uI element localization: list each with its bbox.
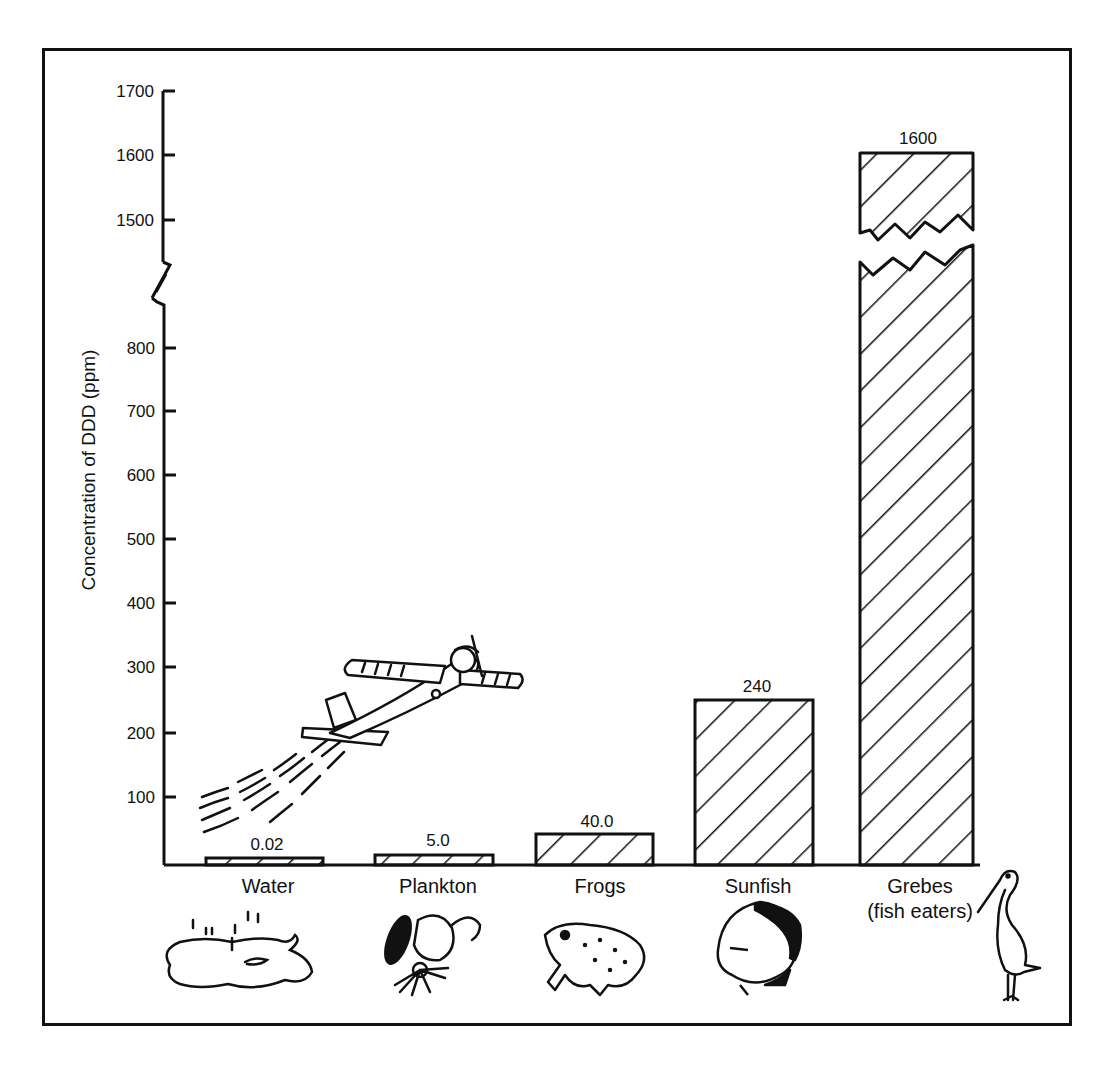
category-label-plankton: Plankton: [399, 875, 477, 897]
bar-grebes-lower: [860, 245, 973, 865]
category-label-sunfish: Sunfish: [725, 875, 792, 897]
bar-frogs: [536, 834, 653, 865]
y-tick-label: 700: [127, 402, 155, 421]
plankton-icon: [380, 913, 480, 995]
figure: 1700 1600 1500 800 700 600 500 400 300 2…: [0, 0, 1117, 1074]
bar-water: [206, 858, 323, 865]
bars: [206, 153, 973, 865]
category-sublabel-grebes: (fish eaters): [867, 900, 973, 922]
bar-sunfish: [695, 700, 813, 865]
sunfish-icon: [718, 902, 801, 995]
y-tick-label: 100: [127, 788, 155, 807]
category-label-frogs: Frogs: [574, 875, 625, 897]
y-tick-label: 1600: [116, 146, 154, 165]
y-tick-label: 500: [127, 530, 155, 549]
value-label-grebes: 1600: [899, 129, 937, 148]
y-axis-title: Concentration of DDD (ppm): [78, 350, 99, 591]
y-tick-label: 200: [127, 724, 155, 743]
frog-icon: [545, 924, 644, 995]
value-label-frogs: 40.0: [580, 812, 613, 831]
y-tick-label: 800: [127, 339, 155, 358]
airplane-illustration: [200, 636, 523, 832]
y-tick-label: 600: [127, 466, 155, 485]
value-label-plankton: 5.0: [426, 831, 450, 850]
y-tick-label: 300: [127, 658, 155, 677]
bar-plankton: [375, 855, 493, 865]
bar-chart: 1700 1600 1500 800 700 600 500 400 300 2…: [0, 0, 1117, 1074]
y-tick-label: 1700: [116, 82, 154, 101]
spray-icon: [200, 738, 344, 832]
bar-grebes-upper: [860, 153, 973, 240]
grebe-bird-icon: [978, 871, 1040, 1000]
value-labels: 0.02 5.0 40.0 240 1600: [250, 129, 936, 854]
value-label-water: 0.02: [250, 835, 283, 854]
y-axis: [152, 91, 176, 865]
category-labels: Water Plankton Frogs Sunfish Grebes (fis…: [242, 875, 973, 922]
category-label-grebes: Grebes: [887, 875, 953, 897]
value-label-sunfish: 240: [743, 677, 771, 696]
axis-break-mark: [156, 274, 166, 292]
y-tick-label: 400: [127, 594, 155, 613]
category-label-water: Water: [242, 875, 295, 897]
y-tick-label: 1500: [116, 211, 154, 230]
water-puddle-icon: [167, 912, 312, 987]
y-tick-labels: 1700 1600 1500 800 700 600 500 400 300 2…: [116, 82, 155, 807]
